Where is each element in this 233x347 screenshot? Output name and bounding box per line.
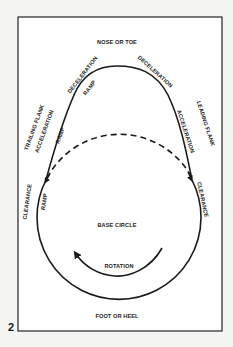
label-foot-or-heel: FOOT OR HEEL	[95, 313, 139, 319]
label-rotation: ROTATION	[104, 263, 133, 269]
label-nose-or-toe: NOSE OR TOE	[97, 39, 137, 45]
label-base-circle: BASE CIRCLE	[97, 222, 136, 228]
cam-lobe-diagram: NOSE OR TOE DECELERATION RAMP DECELERATI…	[0, 0, 233, 347]
diagram-canvas: NOSE OR TOE DECELERATION RAMP DECELERATI…	[0, 0, 233, 347]
figure-number: 2	[8, 321, 14, 333]
